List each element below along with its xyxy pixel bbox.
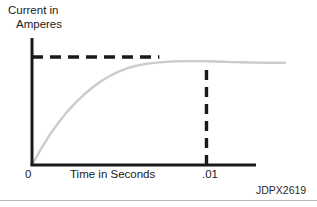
bottom-divider: [0, 200, 317, 201]
curve-group: [32, 61, 285, 165]
figure-container: Current in Amperes 0 Time in Seconds .01…: [0, 0, 317, 207]
x-axis-title: Time in Seconds: [70, 168, 155, 182]
y-axis-title-line2: Amperes: [8, 18, 62, 32]
y-axis-title-line1: Current in: [8, 4, 59, 16]
current-rise-curve: [32, 61, 285, 165]
x-axis-tick-label-0: 0: [25, 168, 31, 182]
figure-reference-code: JDPX2619: [256, 184, 306, 196]
annotations-group: [32, 57, 206, 165]
x-axis-tick-label-point01: .01: [202, 168, 218, 182]
y-axis-title: Current in Amperes: [8, 4, 62, 31]
